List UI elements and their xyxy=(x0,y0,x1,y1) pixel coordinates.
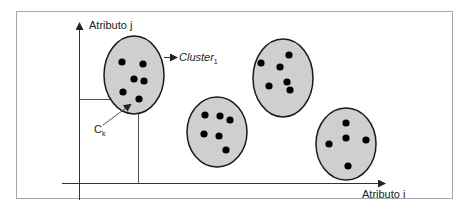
cluster-ellipse xyxy=(253,39,313,117)
cluster-ellipse xyxy=(316,108,376,180)
cluster-2 xyxy=(187,97,247,167)
data-point xyxy=(135,95,142,102)
cluster-ellipse xyxy=(187,97,247,167)
data-point xyxy=(226,116,233,123)
data-point xyxy=(285,51,292,58)
data-point xyxy=(286,86,293,93)
data-point xyxy=(362,136,369,143)
data-point xyxy=(257,59,264,66)
data-point xyxy=(344,162,351,169)
cluster-1 xyxy=(104,36,164,114)
data-point xyxy=(342,119,349,126)
data-point xyxy=(130,75,137,82)
data-point xyxy=(201,111,208,118)
data-point xyxy=(215,132,222,139)
data-point xyxy=(325,140,332,147)
data-point xyxy=(265,82,272,89)
data-point xyxy=(119,88,126,95)
cluster-3 xyxy=(253,39,313,117)
data-point xyxy=(276,63,283,70)
cluster-label: Cluster1 xyxy=(179,51,218,65)
data-point xyxy=(200,130,207,137)
cluster-4 xyxy=(316,108,376,180)
data-point xyxy=(118,58,125,65)
data-point xyxy=(342,134,349,141)
data-point xyxy=(283,78,290,85)
y-axis-label: Atributo j xyxy=(89,19,132,31)
data-point xyxy=(139,60,146,67)
data-point xyxy=(216,112,223,119)
x-axis-label: Atributo i xyxy=(362,188,405,200)
data-point xyxy=(140,77,147,84)
data-point xyxy=(222,146,229,153)
cluster-diagram: Atributo j Atributo i Cluster1 Ck xyxy=(0,0,466,224)
cluster-ellipse xyxy=(104,36,164,114)
